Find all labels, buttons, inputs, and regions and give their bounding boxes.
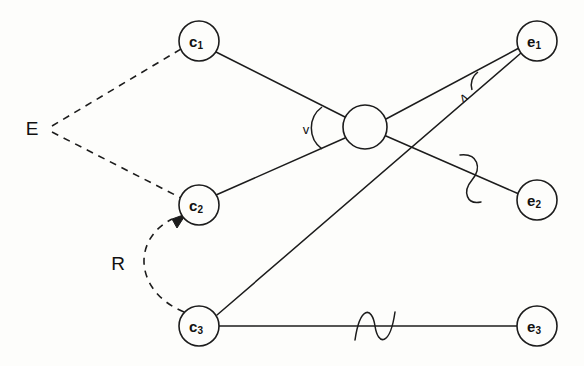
edge-c2-to-hub	[216, 138, 345, 195]
edge-group-c3-outputs	[217, 53, 521, 326]
node-c3[interactable]: c3	[179, 306, 219, 346]
angle-arc-v	[311, 107, 322, 149]
node-e1[interactable]: e1	[517, 21, 557, 61]
edge-group-hub-inputs	[216, 52, 345, 195]
diagram-svg: c1 c2 c3 e1 e2	[0, 0, 584, 366]
marker-group-squiggles	[355, 155, 481, 340]
edge-R-c3-to-c2	[144, 219, 184, 312]
edge-E-to-c1	[52, 49, 181, 126]
node-e2[interactable]: e2	[517, 180, 557, 220]
diagram-canvas: c1 c2 c3 e1 e2	[0, 0, 584, 366]
node-c1[interactable]: c1	[179, 21, 219, 61]
node-e3[interactable]: e3	[517, 306, 557, 346]
edge-group-E-membership	[52, 49, 181, 198]
angle-arc-lambda	[471, 72, 478, 90]
edge-group-hub-outputs	[386, 48, 519, 194]
edge-hub-to-e2	[386, 136, 519, 194]
set-label-E: E	[26, 118, 39, 139]
hub-node[interactable]	[343, 105, 387, 149]
edge-c1-to-hub	[216, 52, 345, 117]
node-c2[interactable]: c2	[179, 185, 219, 225]
edge-hub-to-e1	[386, 48, 519, 119]
squiggle-icon-hub-e2	[460, 155, 481, 203]
hub-circle[interactable]	[343, 105, 387, 149]
edge-E-to-c2	[52, 132, 181, 198]
angle-label-v: v	[303, 122, 310, 137]
angle-label-lambda: ʌ	[456, 89, 470, 105]
edge-group-R-relation	[144, 214, 186, 312]
set-label-R: R	[111, 253, 125, 274]
edge-c3-to-e1	[217, 53, 521, 315]
